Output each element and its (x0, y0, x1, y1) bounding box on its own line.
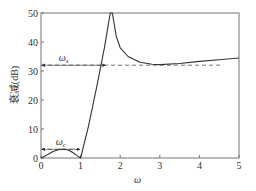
attenuation-chart: 01020304050 012345 ωsωc ω 衰减(dB) (0, 0, 256, 191)
y-tick-label: 20 (28, 95, 38, 106)
y-axis-label: 衰减(dB) (8, 66, 21, 104)
attenuation-curve (41, 13, 239, 158)
annotation-label: ωs (59, 52, 69, 65)
x-tick-label: 2 (118, 160, 123, 171)
x-tick-label: 5 (237, 160, 242, 171)
y-tick-label: 50 (28, 8, 38, 19)
y-tick-label: 40 (28, 37, 38, 48)
y-tick-label: 0 (33, 153, 38, 164)
annotation-label: ωc (56, 136, 67, 149)
data-series (41, 13, 239, 158)
x-axis-label: ω (134, 174, 141, 185)
x-axis: 012345 (39, 155, 242, 171)
x-tick-label: 4 (197, 160, 202, 171)
y-axis: 01020304050 (28, 8, 44, 164)
y-tick-label: 10 (28, 124, 38, 135)
x-tick-label: 3 (157, 160, 162, 171)
x-tick-label: 1 (78, 160, 83, 171)
annotations: ωsωc (41, 52, 223, 149)
y-tick-label: 30 (28, 66, 38, 77)
x-tick-label: 0 (39, 160, 44, 171)
plot-frame (41, 13, 239, 158)
